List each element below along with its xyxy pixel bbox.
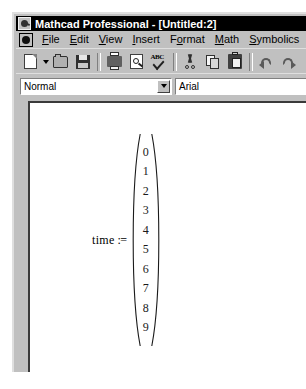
menu-item-insert[interactable]: Insert bbox=[127, 32, 165, 47]
standard-toolbar: ABC bbox=[16, 48, 306, 74]
print-preview-icon bbox=[130, 54, 143, 69]
left-paren-icon bbox=[132, 133, 141, 347]
menu-item-edit[interactable]: Edit bbox=[65, 32, 94, 47]
undo-button[interactable] bbox=[256, 51, 277, 72]
print-icon bbox=[107, 56, 122, 67]
vector-cell[interactable]: 9 bbox=[143, 318, 149, 338]
spell-check-icon: ABC bbox=[151, 54, 167, 70]
vector-cell[interactable]: 4 bbox=[143, 221, 149, 241]
cut-button[interactable] bbox=[180, 51, 201, 72]
copy-button[interactable] bbox=[202, 51, 223, 72]
mathcad-logo-icon[interactable] bbox=[18, 17, 31, 30]
vector-cell[interactable]: 2 bbox=[143, 182, 149, 202]
document-control-icon[interactable] bbox=[19, 33, 33, 47]
vector-cell[interactable]: 6 bbox=[143, 260, 149, 280]
menu-item-view[interactable]: View bbox=[94, 32, 128, 47]
font-select[interactable]: Arial bbox=[175, 78, 306, 95]
font-select-value: Arial bbox=[176, 79, 199, 94]
new-document-button[interactable] bbox=[20, 51, 41, 72]
menu-item-symbolics[interactable]: Symbolics bbox=[244, 32, 304, 47]
menu-bar: File Edit View Insert Format Math Symbol… bbox=[16, 31, 306, 48]
spell-check-button[interactable]: ABC bbox=[148, 51, 169, 72]
menu-item-math[interactable]: Math bbox=[210, 32, 244, 47]
vector-cell[interactable]: 3 bbox=[143, 201, 149, 221]
vector-cells: 0 1 2 3 4 5 6 7 8 9 bbox=[141, 133, 151, 347]
open-button[interactable] bbox=[50, 51, 71, 72]
new-dropdown-arrow[interactable] bbox=[42, 51, 50, 72]
title-bar: Mathcad Professional - [Untitled:2] bbox=[16, 16, 306, 31]
paste-button[interactable] bbox=[224, 51, 245, 72]
style-select-value: Normal bbox=[21, 79, 56, 94]
save-button[interactable] bbox=[72, 51, 93, 72]
copy-icon bbox=[206, 55, 220, 69]
toolbar-separator bbox=[97, 53, 101, 71]
toolbar-separator bbox=[173, 53, 177, 71]
save-floppy-icon bbox=[76, 55, 90, 69]
mathcad-window: Mathcad Professional - [Untitled:2] File… bbox=[12, 12, 306, 372]
redo-icon bbox=[281, 55, 296, 68]
new-document-icon bbox=[24, 54, 37, 69]
variable-name-label: time bbox=[92, 233, 118, 248]
vector-cell[interactable]: 5 bbox=[143, 240, 149, 260]
chevron-down-icon[interactable] bbox=[157, 80, 170, 93]
vector-cell[interactable]: 7 bbox=[143, 279, 149, 299]
document-canvas[interactable]: time := 0 1 2 3 4 5 6 7 8 bbox=[28, 101, 306, 372]
formatting-toolbar: Normal Arial bbox=[16, 73, 306, 98]
print-preview-button[interactable] bbox=[126, 51, 147, 72]
menu-item-format[interactable]: Format bbox=[165, 32, 210, 47]
undo-icon bbox=[259, 55, 274, 68]
math-region-time-vector[interactable]: time := 0 1 2 3 4 5 6 7 8 bbox=[92, 133, 160, 347]
toolbar-separator bbox=[249, 53, 253, 71]
right-paren-icon bbox=[151, 133, 160, 347]
menu-item-file[interactable]: File bbox=[37, 32, 65, 47]
window-title: Mathcad Professional - [Untitled:2] bbox=[35, 18, 217, 30]
column-vector[interactable]: 0 1 2 3 4 5 6 7 8 9 bbox=[132, 133, 160, 347]
style-select[interactable]: Normal bbox=[20, 78, 172, 95]
vector-cell[interactable]: 8 bbox=[143, 299, 149, 319]
print-button[interactable] bbox=[104, 51, 125, 72]
paste-clipboard-icon bbox=[228, 54, 242, 69]
redo-button[interactable] bbox=[278, 51, 299, 72]
cut-scissors-icon bbox=[184, 54, 197, 69]
assignment-operator: := bbox=[118, 233, 132, 248]
vector-cell[interactable]: 1 bbox=[143, 162, 149, 182]
vector-cell[interactable]: 0 bbox=[143, 143, 149, 163]
open-folder-icon bbox=[53, 56, 68, 68]
